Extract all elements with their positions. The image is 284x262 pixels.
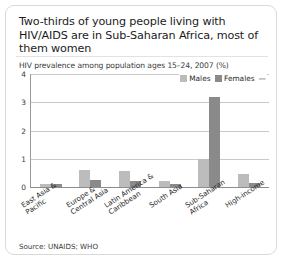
- bar-group-2: [119, 74, 141, 187]
- y-tick-3: 3: [19, 98, 26, 107]
- bar-group-1: [79, 74, 101, 187]
- legend-swatch-males: [180, 75, 187, 82]
- bar-males-3: [159, 181, 170, 187]
- chart-subtitle: HIV prevalence among population ages 15–…: [19, 61, 229, 70]
- chart-legend: Males Females —: [179, 74, 267, 83]
- bar-group-0: [40, 74, 62, 187]
- bar-females-4: [209, 97, 220, 187]
- bar-group-5: [238, 74, 260, 187]
- y-tick-1: 1: [19, 154, 26, 163]
- legend-dash-icon: —: [259, 74, 266, 83]
- y-tick-2: 2: [19, 126, 26, 135]
- legend-item-females: Females: [215, 74, 255, 83]
- legend-item-males: Males: [180, 74, 211, 83]
- page-title: Two-thirds of young people living with H…: [19, 15, 267, 56]
- title-divider: [16, 56, 268, 57]
- bar-group-3: [159, 74, 181, 187]
- bar-males-4: [198, 159, 209, 187]
- y-tick-0: 0: [19, 183, 26, 192]
- chart-card: Two-thirds of young people living with H…: [5, 5, 277, 255]
- legend-label-females: Females: [224, 74, 255, 83]
- x-axis-labels: East Asia &Pacific Europe &Central Asia …: [18, 199, 268, 241]
- chart-source: Source: UNAIDS; WHO: [19, 242, 98, 251]
- bar-group-4: [198, 74, 220, 187]
- y-tick-4: 4: [19, 70, 26, 79]
- legend-label-males: Males: [189, 74, 210, 83]
- legend-swatch-females: [215, 75, 222, 82]
- bar-males-1: [79, 170, 90, 187]
